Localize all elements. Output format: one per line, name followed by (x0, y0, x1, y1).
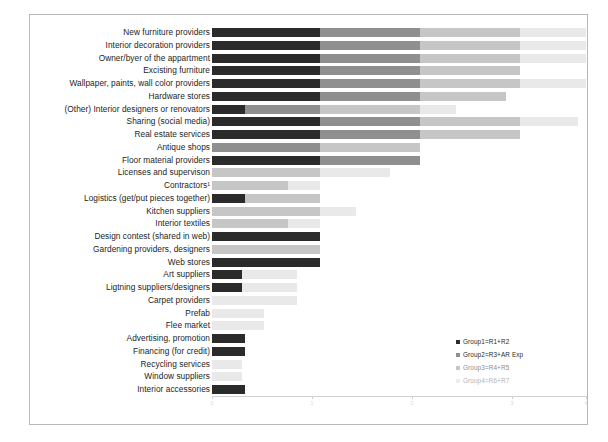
bar-segment-group3 (420, 54, 520, 63)
bar-row: Kitchen suppliers (30, 206, 587, 218)
x-tick-mark (512, 396, 513, 399)
bar-row-label: Hardware stores (20, 90, 210, 102)
legend-label: Group1=R1+R2 (463, 336, 509, 347)
bar-segment-group1 (212, 54, 320, 63)
bar-row: Antique shops (30, 142, 587, 154)
legend-item[interactable]: Group4=R6+R7 (456, 375, 581, 386)
bar-row-label: Logistics (get/put pieces together) (20, 192, 210, 204)
bar-segment-group3 (212, 245, 320, 254)
bar-segment-group3 (420, 130, 520, 139)
bar-row: Real estate services (30, 129, 587, 141)
bar-row: Wallpaper, paints, wall color providers (30, 78, 587, 90)
bar-row-label: Prefab (20, 307, 210, 319)
stacked-bar (212, 54, 586, 63)
bar-segment-group3 (420, 79, 520, 88)
bar-row-label: Excisting furniture (20, 64, 210, 76)
legend-item[interactable]: Group1=R1+R2 (456, 336, 581, 347)
stacked-bar (212, 258, 320, 267)
bar-segment-group4 (242, 270, 297, 279)
bar-segment-group1 (212, 92, 320, 101)
x-tick-label: 1 (311, 400, 314, 407)
bar-segment-group3 (320, 105, 420, 114)
x-tick-mark (212, 396, 213, 399)
bar-row: Flee market (30, 320, 587, 332)
bar-row-label: Wallpaper, paints, wall color providers (20, 77, 210, 89)
bar-segment-group2 (320, 130, 420, 139)
bar-segment-group2 (320, 66, 420, 75)
bar-row-label: Art suppliers (20, 268, 210, 280)
bar-segment-group3 (212, 181, 288, 190)
stacked-bar (212, 283, 297, 292)
bar-segment-group3 (420, 92, 506, 101)
bar-row: Owner/byer of the appartment (30, 53, 587, 65)
stacked-bar (212, 41, 586, 50)
bar-segment-group1 (212, 79, 320, 88)
legend-swatch-icon (456, 379, 460, 383)
bar-segment-group4 (288, 219, 320, 228)
bar-row: Contractors¹ (30, 180, 587, 192)
bar-row-label: Design contest (shared in web) (20, 230, 210, 242)
bar-segment-group1 (212, 347, 245, 356)
bar-row: Logistics (get/put pieces together) (30, 193, 587, 205)
x-tick-label: 0 (211, 400, 214, 407)
stacked-bar (212, 105, 456, 114)
stacked-bar (212, 194, 320, 203)
legend-label: Group2=R3+AR Exp (463, 349, 523, 360)
stacked-bar (212, 309, 264, 318)
legend-label: Group3=R4+R5 (463, 362, 509, 373)
bar-segment-group3 (420, 66, 520, 75)
bar-segment-group1 (212, 232, 320, 241)
bar-row-label: Contractors¹ (20, 179, 210, 191)
x-tick-mark (412, 396, 413, 399)
bar-row-label: Recycling services (20, 358, 210, 370)
legend-item[interactable]: Group3=R4+R5 (456, 362, 581, 373)
x-tick-label: 3 (511, 400, 514, 407)
legend-item[interactable]: Group2=R3+AR Exp (456, 349, 581, 360)
stacked-bar (212, 385, 245, 394)
bar-segment-group1 (212, 194, 245, 203)
bar-segment-group4 (520, 41, 586, 50)
bar-segment-group2 (320, 117, 420, 126)
bar-row: Gardening providers, designers (30, 244, 587, 256)
bar-segment-group4 (520, 28, 586, 37)
bar-row: Ligtning suppliers/designers (30, 282, 587, 294)
bar-segment-group2 (320, 54, 420, 63)
bar-row: Interior decoration providers (30, 40, 587, 52)
bar-row-label: Flee market (20, 319, 210, 331)
bar-segment-group3 (245, 194, 320, 203)
bar-segment-group1 (212, 156, 320, 165)
bar-segment-group1 (212, 105, 245, 114)
bar-row: Design contest (shared in web) (30, 231, 587, 243)
bar-segment-group1 (212, 334, 245, 343)
stacked-bar (212, 347, 245, 356)
bar-row-label: Interior accessories (20, 383, 210, 395)
bar-segment-group1 (212, 283, 242, 292)
chart-legend: Group1=R1+R2Group2=R3+AR ExpGroup3=R4+R5… (456, 336, 581, 388)
bar-row: Floor material providers (30, 155, 587, 167)
bar-row-label: Interior decoration providers (20, 39, 210, 51)
bar-row: Hardware stores (30, 91, 587, 103)
chart-frame: New furniture providersInterior decorati… (29, 14, 588, 425)
bar-segment-group4 (212, 321, 264, 330)
bar-segment-group4 (212, 372, 242, 381)
bar-row-label: Real estate services (20, 128, 210, 140)
bar-row: Art suppliers (30, 269, 587, 281)
bar-segment-group3 (420, 117, 520, 126)
bar-segment-group3 (420, 28, 520, 37)
legend-swatch-icon (456, 366, 460, 370)
x-tick-label: 2 (411, 400, 414, 407)
bar-segment-group1 (212, 385, 245, 394)
bar-row-label: Owner/byer of the appartment (20, 52, 210, 64)
stacked-bar (212, 143, 420, 152)
bar-segment-group4 (520, 117, 578, 126)
bar-segment-group4 (320, 168, 390, 177)
bar-row-label: Carpet providers (20, 294, 210, 306)
bar-row-label: Financing (for credit) (20, 345, 210, 357)
bar-segment-group4 (212, 360, 242, 369)
bar-row-label: Licenses and supervison (20, 166, 210, 178)
bar-segment-group2 (320, 92, 420, 101)
x-tick-mark (312, 396, 313, 399)
bar-row: Carpet providers (30, 295, 587, 307)
bar-row: Excisting furniture (30, 65, 587, 77)
bar-segment-group2 (212, 143, 320, 152)
